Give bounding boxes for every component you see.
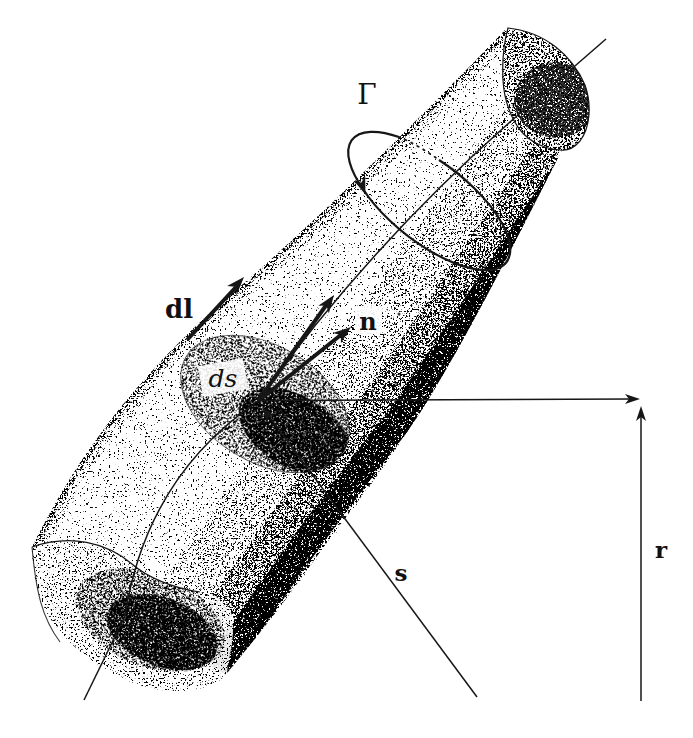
n-label: n — [359, 307, 376, 336]
figure-page: Γ dl ds n s r — [0, 0, 693, 738]
ds-label: ds — [209, 364, 238, 393]
vortex-tube-figure: Γ dl ds n s r — [0, 0, 693, 738]
s-label: s — [395, 559, 408, 586]
top-face-shade — [514, 62, 598, 138]
dl-label: dl — [165, 294, 193, 324]
r-label: r — [655, 536, 668, 563]
gamma-label: Γ — [357, 78, 376, 111]
dot-mark — [398, 313, 401, 316]
